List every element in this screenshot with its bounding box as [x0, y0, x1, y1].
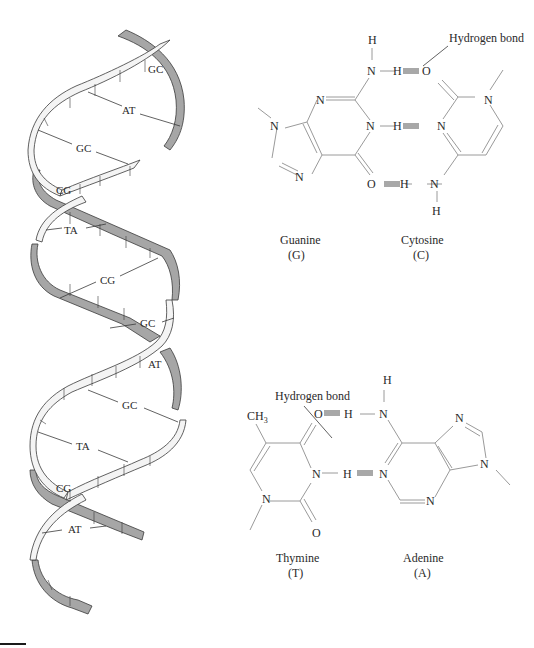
guanine-cytosine-pair: Hydrogen bond H N H O N N N N H N N O H … [258, 31, 524, 262]
front-strand [28, 40, 186, 560]
thymine-name: Thymine [276, 551, 319, 565]
base-pair-label: CG [100, 274, 115, 286]
adenine-abbr: (A) [414, 566, 431, 580]
svg-text:N: N [480, 457, 489, 471]
thymine-adenine-pair: Hydrogen bond [247, 373, 510, 580]
svg-text:N: N [295, 170, 304, 184]
svg-text:N: N [367, 64, 376, 78]
guanine-name: Guanine [280, 233, 321, 247]
svg-text:N: N [312, 467, 321, 481]
cytosine-abbr: (C) [413, 248, 429, 262]
hydrogen-bond-label: Hydrogen bond [275, 389, 350, 403]
svg-text:N: N [270, 119, 279, 133]
base-pair-label: TA [64, 224, 78, 236]
hydrogen-bond-leader [423, 46, 448, 66]
base-pair-label: CG [56, 482, 71, 494]
svg-text:N: N [379, 467, 388, 481]
svg-text:N: N [366, 119, 375, 133]
svg-text:N: N [437, 119, 446, 133]
svg-text:N: N [379, 407, 388, 421]
double-helix: GC AT GC CG TA CG GC AT GC TA CG AT [28, 30, 186, 614]
svg-text:N: N [455, 411, 464, 425]
svg-text:H: H [368, 33, 377, 47]
svg-text:H: H [343, 467, 352, 481]
guanine-abbr: (G) [288, 248, 305, 262]
svg-text:N: N [262, 492, 271, 506]
base-pair-label: CG [56, 184, 71, 196]
svg-text:H: H [400, 177, 409, 191]
strand-ticks [40, 60, 150, 606]
dna-diagram: GC AT GC CG TA CG GC AT GC TA CG AT [0, 0, 534, 648]
base-pair-label: GC [76, 142, 91, 154]
base-pair-label: GC [148, 63, 163, 75]
hydrogen-bond-label: Hydrogen bond [449, 31, 524, 45]
adenine-name: Adenine [403, 551, 444, 565]
svg-text:O: O [367, 177, 376, 191]
svg-text:N: N [484, 93, 493, 107]
svg-text:N: N [430, 177, 439, 191]
svg-text:H: H [393, 119, 402, 133]
thymine-abbr: (T) [288, 566, 303, 580]
base-pair-label: AT [148, 358, 162, 370]
back-strand [30, 30, 184, 614]
svg-text:O: O [422, 64, 431, 78]
svg-text:H: H [383, 373, 392, 387]
base-pair-label: AT [122, 104, 136, 116]
methyl-group: CH3 [247, 409, 268, 425]
base-pair-label: TA [76, 440, 90, 452]
svg-text:O: O [312, 526, 321, 540]
svg-text:H: H [393, 64, 402, 78]
svg-text:N: N [316, 93, 325, 107]
svg-text:O: O [314, 407, 323, 421]
svg-text:H: H [344, 407, 353, 421]
cytosine-name: Cytosine [401, 233, 444, 247]
svg-text:N: N [426, 494, 435, 508]
base-pair-label: GC [140, 317, 155, 329]
base-pair-label: GC [122, 399, 137, 411]
base-pair-label: AT [68, 523, 82, 535]
svg-text:H: H [432, 204, 441, 218]
